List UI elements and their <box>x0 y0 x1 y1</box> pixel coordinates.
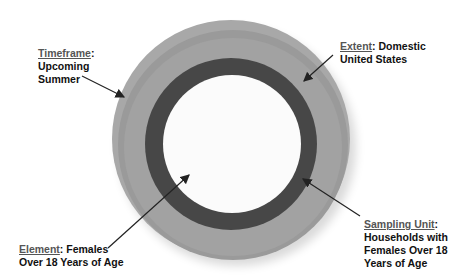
element-label: Element: Females Over 18 Years of Age <box>19 243 123 269</box>
sampling-unit-arrow <box>303 179 360 216</box>
timeframe-label: Timeframe: Upcoming Summer <box>38 47 94 86</box>
extent-arrow <box>304 55 333 81</box>
sampling-unit-label: Sampling Unit: Households with Females O… <box>364 218 448 270</box>
extent-label: Extent: Domestic United States <box>340 40 426 66</box>
element-arrow <box>108 175 189 248</box>
